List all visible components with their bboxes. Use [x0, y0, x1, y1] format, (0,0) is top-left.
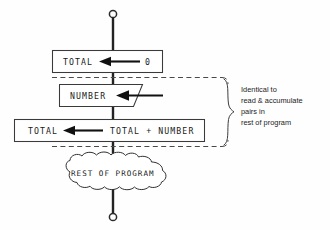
rest-of-program-label: REST OF PROGRAM	[71, 169, 155, 178]
annotation-line-4: rest of program	[241, 118, 291, 127]
top-connector-circle	[109, 10, 116, 17]
init-box-target: TOTAL	[63, 57, 93, 67]
annotation-brace	[224, 79, 234, 145]
annotation-line-1: Identical to	[241, 85, 277, 94]
accumulate-box-value: TOTAL + NUMBER	[110, 126, 194, 136]
accumulate-box-target: TOTAL	[28, 126, 58, 136]
flowchart-drawing: TOTAL 0 NUMBER TOTAL TOTAL + NUMBER REST…	[0, 0, 330, 230]
read-box-label: NUMBER	[70, 91, 106, 101]
init-box-value: 0	[145, 57, 151, 67]
flowchart-canvas: TOTAL 0 NUMBER TOTAL TOTAL + NUMBER REST…	[0, 0, 330, 230]
annotation-line-3: pairs in	[241, 107, 265, 116]
annotation-line-2: read & accumulate	[241, 96, 303, 105]
bottom-connector-circle	[109, 213, 116, 220]
